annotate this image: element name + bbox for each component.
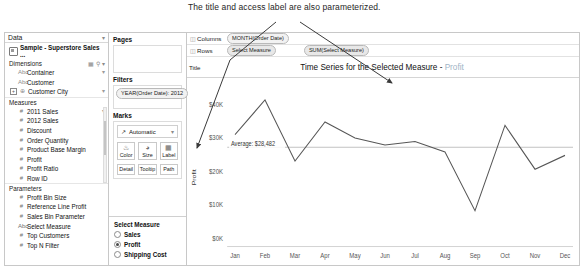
radio-option-sales[interactable]: Sales bbox=[114, 231, 182, 238]
chevron-down-icon[interactable]: ▾ bbox=[102, 35, 105, 41]
parameter-label: Reference Line Profit bbox=[27, 202, 86, 212]
field-label: 2012 Sales bbox=[27, 116, 59, 126]
measures-section-header: Measures bbox=[5, 97, 108, 107]
label-button-label: Label bbox=[162, 152, 175, 158]
field-item[interactable]: + ⊕ Customer City ▾ bbox=[5, 87, 108, 97]
field-type-icon: # bbox=[18, 164, 25, 174]
field-type-icon: # bbox=[18, 136, 25, 146]
radio-label: Profit bbox=[124, 241, 140, 248]
color-palette-icon: ♨ bbox=[123, 144, 129, 152]
parameter-label: Top N Filter bbox=[27, 241, 59, 251]
field-item[interactable]: # Profit Ratio bbox=[5, 164, 108, 174]
search-icon[interactable]: ⚲ bbox=[96, 60, 100, 67]
field-type-icon: # bbox=[18, 145, 25, 155]
chart-area[interactable]: Profit $40K $30K $20K $10K $0K Average: … bbox=[187, 78, 579, 265]
mark-type-dropdown[interactable]: ↗ Automatic ▾ bbox=[117, 125, 178, 138]
radio-icon[interactable] bbox=[114, 231, 121, 238]
rows-shelf[interactable]: ◫ Rows Select Measure SUM(Select Measure… bbox=[187, 45, 579, 57]
field-item[interactable]: # Order Quantity bbox=[5, 136, 108, 146]
columns-label: Columns bbox=[197, 35, 225, 42]
datasource-item[interactable]: Sample - Superstore Sales ... bbox=[5, 43, 108, 59]
path-button[interactable]: Path bbox=[160, 164, 178, 175]
field-type-icon: Abc bbox=[18, 68, 25, 78]
chevron-down-icon[interactable]: ▾ bbox=[102, 87, 105, 97]
parameter-item[interactable]: # Profit Bin Size bbox=[5, 193, 108, 203]
x-tick-label: Jul bbox=[411, 252, 419, 259]
measures-list: # 2011 Sales ▾ # 2012 Sales # Discount #… bbox=[5, 107, 108, 183]
parameters-section-header: Parameters bbox=[5, 183, 108, 193]
field-label: Product Base Margin bbox=[27, 145, 86, 155]
chevron-down-icon[interactable]: ▾ bbox=[171, 129, 174, 135]
parameter-item[interactable]: Abc Select Measure bbox=[5, 222, 108, 232]
field-item[interactable]: # Discount bbox=[5, 126, 108, 136]
x-tick-label: Dec bbox=[560, 252, 571, 259]
radio-icon[interactable] bbox=[114, 251, 121, 258]
view-title-parameter: Profit bbox=[445, 63, 464, 72]
field-item[interactable]: # Row ID bbox=[5, 174, 108, 183]
field-label: Container bbox=[27, 68, 54, 78]
field-item[interactable]: # 2012 Sales bbox=[5, 116, 108, 126]
x-tick-label: Aug bbox=[440, 252, 451, 261]
x-tick-label: Oct bbox=[500, 252, 510, 259]
expand-icon[interactable]: + bbox=[10, 88, 17, 95]
rows-pill-2[interactable]: SUM(Select Measure) bbox=[304, 45, 369, 56]
data-pane-title: Data bbox=[8, 34, 22, 41]
marks-label: Marks bbox=[109, 109, 186, 121]
rows-label: Rows bbox=[197, 47, 225, 54]
view-title-static: Time Series for the Selected Measure - bbox=[300, 63, 444, 72]
tooltip-button-label: Tooltip bbox=[140, 166, 156, 172]
color-button[interactable]: ♨ Color bbox=[117, 142, 135, 160]
parameter-item[interactable]: # Top N Filter bbox=[5, 241, 108, 251]
y-tick-label: $40K bbox=[209, 100, 224, 107]
field-type-icon: # bbox=[18, 126, 25, 136]
columns-icon: ◫ bbox=[189, 36, 197, 42]
measures-scrollbar[interactable] bbox=[103, 107, 107, 183]
tooltip-button[interactable]: Tooltip bbox=[138, 164, 156, 175]
parameter-item[interactable]: # Top Customers bbox=[5, 231, 108, 241]
radio-icon-selected[interactable] bbox=[114, 241, 121, 248]
view-title[interactable]: Time Series for the Selected Measure - P… bbox=[225, 63, 579, 72]
x-tick-label: Feb bbox=[260, 252, 271, 259]
data-series-profit bbox=[235, 100, 565, 211]
parameter-item[interactable]: # Sales Bin Parameter bbox=[5, 212, 108, 222]
chevron-down-icon[interactable]: ▾ bbox=[102, 60, 105, 67]
x-tick-label: Nov bbox=[530, 252, 541, 259]
scrollbar-thumb[interactable] bbox=[104, 121, 106, 155]
filter-pill[interactable]: YEAR(Order Date): 2012 bbox=[116, 88, 188, 99]
marks-button-row-1: ♨ Color ◕ Size ▦ Label bbox=[117, 142, 178, 160]
x-tick-label: Jan bbox=[230, 252, 240, 259]
pages-shelf[interactable] bbox=[113, 45, 182, 73]
marks-button-row-2: Detail Tooltip Path bbox=[117, 164, 178, 175]
filters-shelf[interactable]: YEAR(Order Date): 2012 bbox=[113, 85, 182, 109]
parameter-item[interactable]: # Reference Line Profit bbox=[5, 202, 108, 212]
line-chart[interactable]: Profit $40K $30K $20K $10K $0K Average: … bbox=[187, 78, 579, 265]
x-tick-label: May bbox=[349, 252, 361, 261]
grid-icon[interactable]: ▦ bbox=[88, 60, 94, 67]
field-item[interactable]: # 2011 Sales ▾ bbox=[5, 107, 108, 117]
columns-shelf[interactable]: ◫ Columns MONTH(Order Date) bbox=[187, 33, 579, 45]
field-item[interactable]: # Product Base Margin bbox=[5, 145, 108, 155]
radio-option-profit[interactable]: Profit bbox=[114, 241, 182, 248]
radio-label: Sales bbox=[124, 231, 140, 238]
field-type-icon: # bbox=[18, 193, 25, 203]
label-button[interactable]: ▦ Label bbox=[160, 142, 178, 160]
x-tick-label: Jun bbox=[380, 252, 390, 259]
parameter-label: Select Measure bbox=[27, 222, 71, 232]
field-item[interactable]: Abc Container ▾ bbox=[5, 68, 108, 78]
rows-pill-1[interactable]: Select Measure bbox=[227, 45, 276, 56]
field-item[interactable]: Abc Customer bbox=[5, 78, 108, 88]
color-button-label: Color bbox=[120, 152, 133, 158]
database-icon bbox=[9, 47, 18, 56]
parameters-label: Parameters bbox=[9, 185, 42, 192]
parameter-label: Profit Bin Size bbox=[27, 193, 67, 203]
detail-button[interactable]: Detail bbox=[117, 164, 135, 175]
field-label: Profit bbox=[27, 155, 42, 165]
columns-pill[interactable]: MONTH(Order Date) bbox=[227, 33, 289, 44]
parameter-label: Top Customers bbox=[27, 231, 69, 241]
chevron-down-icon[interactable]: ▾ bbox=[102, 68, 105, 78]
radio-option-shipping-cost[interactable]: Shipping Cost bbox=[114, 251, 182, 258]
size-button[interactable]: ◕ Size bbox=[138, 142, 156, 160]
filters-label: Filters bbox=[109, 73, 186, 85]
parameter-control-title: Select Measure bbox=[114, 221, 182, 228]
field-item[interactable]: # Profit bbox=[5, 155, 108, 165]
